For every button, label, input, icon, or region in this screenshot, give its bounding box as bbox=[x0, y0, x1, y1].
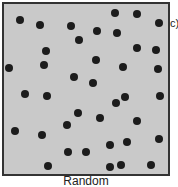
dot bbox=[40, 61, 48, 69]
caption: Random bbox=[0, 174, 172, 187]
dot bbox=[106, 163, 114, 171]
dot bbox=[5, 64, 13, 72]
dot bbox=[155, 19, 163, 27]
dot bbox=[96, 114, 104, 122]
dot bbox=[155, 135, 163, 143]
dot bbox=[133, 10, 141, 18]
dot bbox=[44, 162, 52, 170]
dot bbox=[11, 127, 19, 135]
dot bbox=[133, 117, 141, 125]
dot bbox=[36, 21, 44, 29]
dot bbox=[21, 90, 29, 98]
dot bbox=[82, 148, 90, 156]
dot bbox=[63, 121, 71, 129]
dot bbox=[119, 63, 127, 71]
dot bbox=[156, 92, 164, 100]
dot bbox=[147, 161, 155, 169]
dot bbox=[92, 56, 100, 64]
dot bbox=[42, 47, 50, 55]
dot bbox=[113, 29, 121, 37]
dot bbox=[112, 99, 120, 107]
dot bbox=[89, 79, 97, 87]
dot bbox=[121, 93, 129, 101]
dot bbox=[154, 65, 162, 73]
dot bbox=[75, 36, 83, 44]
dot bbox=[43, 92, 51, 100]
dot bbox=[106, 141, 114, 149]
dot bbox=[16, 16, 24, 24]
dot bbox=[111, 9, 119, 17]
dot bbox=[67, 22, 75, 30]
dot bbox=[74, 109, 82, 117]
dot bbox=[117, 161, 125, 169]
dot bbox=[70, 73, 78, 81]
panel-tag: c) bbox=[170, 17, 178, 29]
dot bbox=[152, 46, 160, 54]
dot bbox=[133, 44, 141, 52]
dot bbox=[93, 27, 101, 35]
dot bbox=[64, 148, 72, 156]
dot bbox=[123, 138, 131, 146]
dot bbox=[38, 131, 46, 139]
